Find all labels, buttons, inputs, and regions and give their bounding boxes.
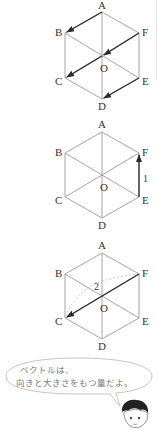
hexagon-1: A B F C E D O — [55, 0, 149, 112]
label-c: C — [55, 75, 62, 87]
label-f: F — [142, 146, 148, 158]
magnitude-label-1: 1 — [143, 173, 148, 184]
label-o: O — [100, 62, 108, 74]
label-o: O — [100, 181, 108, 193]
label-e: E — [142, 315, 149, 327]
label-f: F — [142, 267, 148, 279]
vector-fo — [104, 33, 139, 55]
label-a: A — [98, 239, 106, 251]
label-a: A — [98, 118, 106, 130]
label-c: C — [55, 315, 62, 327]
label-c: C — [55, 194, 62, 206]
label-d: D — [98, 100, 106, 112]
vector-oc — [67, 56, 102, 77]
vector-ed — [104, 78, 139, 98]
label-o: O — [100, 302, 108, 314]
label-d: D — [98, 340, 106, 352]
speech-bubble-line-1: ベクトルは、 — [20, 364, 140, 376]
speech-bubble-line-2: 向きと大きさをもつ量だよ。 — [16, 377, 136, 389]
label-e: E — [142, 75, 149, 87]
label-d: D — [98, 219, 106, 231]
vector-ab — [67, 12, 102, 32]
hexagon-2: 1 A B F C E D O — [55, 118, 149, 231]
label-e: E — [142, 194, 149, 206]
character-boy-icon — [122, 400, 148, 428]
magnitude-label-2: 2 — [94, 281, 99, 292]
page-edge-line — [156, 0, 157, 80]
label-f: F — [142, 26, 148, 38]
label-a: A — [98, 0, 106, 11]
label-b: B — [55, 26, 62, 38]
label-b: B — [55, 146, 62, 158]
label-b: B — [55, 267, 62, 279]
hexagon-3: 2 A B F C E D O — [55, 239, 149, 352]
